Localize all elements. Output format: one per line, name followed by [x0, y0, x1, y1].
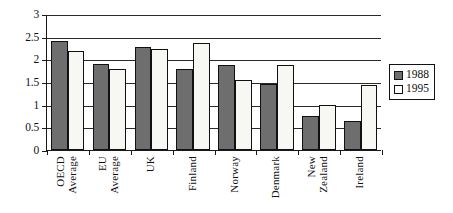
plot-area: 32.521.510.50	[46, 15, 381, 151]
bar-1988[interactable]	[93, 64, 110, 150]
bar-1995[interactable]	[151, 49, 168, 150]
legend-item-label: 1988	[406, 69, 429, 81]
bar-1995[interactable]	[277, 65, 294, 150]
x-axis-tick-mark	[47, 150, 48, 155]
x-axis-category-label-line: UK	[145, 156, 157, 172]
x-axis-category-label: Ireland	[339, 156, 381, 189]
legend-item-label: 1995	[406, 83, 429, 95]
bar-group	[173, 15, 215, 150]
bar-group	[298, 15, 340, 150]
x-axis-category-labels: OECDAverageEUAverageUKFinlandNorwayDenma…	[46, 156, 381, 213]
x-axis-tick-mark	[382, 150, 383, 155]
bar-1995[interactable]	[319, 105, 336, 150]
x-axis-category-label-line: Average	[109, 156, 121, 194]
y-axis-tick-label: 3	[33, 9, 39, 21]
x-axis-tick-mark	[298, 150, 299, 155]
bar-group	[340, 15, 382, 150]
y-axis-tick-label: 2	[33, 55, 39, 67]
x-axis-tick-mark	[89, 150, 90, 155]
bar-1988[interactable]	[135, 47, 152, 150]
bar-1988[interactable]	[176, 69, 193, 150]
x-axis-tick-mark	[256, 150, 257, 155]
bar-1995[interactable]	[361, 85, 378, 150]
x-axis-tick-mark	[131, 150, 132, 155]
x-axis-category-label: Denmark	[255, 156, 297, 198]
y-axis-tick-label: 0.5	[25, 123, 39, 135]
y-axis-tick-label: 1.5	[25, 77, 39, 89]
x-axis-category-label: Finland	[172, 156, 214, 191]
x-axis-category-label-line: Zealand	[318, 156, 330, 193]
bar-group	[256, 15, 298, 150]
bars-layer	[47, 15, 381, 150]
x-axis-tick-mark	[340, 150, 341, 155]
bar-1988[interactable]	[344, 121, 361, 150]
x-axis-category-label-line: Denmark	[270, 156, 282, 198]
x-axis-tick-mark	[173, 150, 174, 155]
x-axis-category-label: NewZealand	[297, 156, 339, 193]
bar-1995[interactable]	[235, 80, 252, 150]
x-axis-category-label-line: Norway	[229, 156, 241, 193]
y-axis-tick-label: 1	[33, 100, 39, 112]
y-axis-tick-label: 2.5	[25, 32, 39, 44]
bar-group	[89, 15, 131, 150]
filled-gray-swatch-icon	[394, 71, 403, 80]
x-axis-tick-mark	[215, 150, 216, 155]
bar-group	[215, 15, 257, 150]
legend-item[interactable]: 1988	[394, 68, 429, 82]
bar-1988[interactable]	[218, 65, 235, 150]
bar-1988[interactable]	[51, 41, 68, 150]
legend-item[interactable]: 1995	[394, 82, 429, 96]
legend: 1988 1995	[389, 64, 435, 100]
bar-1988[interactable]	[302, 116, 319, 150]
x-axis-category-label-line: Average	[67, 156, 79, 194]
x-axis-category-label: OECDAverage	[46, 156, 88, 194]
bar-1995[interactable]	[193, 43, 210, 150]
bar-1995[interactable]	[109, 69, 126, 150]
bar-1995[interactable]	[68, 51, 85, 150]
y-axis-tick-label: 0	[33, 145, 39, 157]
x-axis-category-label-line: Finland	[187, 156, 199, 191]
empty-white-swatch-icon	[394, 85, 403, 94]
x-axis-category-label: Norway	[214, 156, 256, 193]
x-axis-category-label: EUAverage	[88, 156, 130, 194]
bar-1988[interactable]	[260, 84, 277, 150]
bar-group	[47, 15, 89, 150]
x-axis-category-label: UK	[130, 156, 172, 172]
bar-chart: 32.521.510.50 OECDAverageEUAverageUKFinl…	[0, 0, 453, 213]
x-axis-category-label-line: Ireland	[354, 156, 366, 189]
bar-group	[131, 15, 173, 150]
